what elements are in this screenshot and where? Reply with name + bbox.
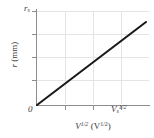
x-axis-tick [93,105,94,110]
y-axis-tick [32,34,37,35]
plot-area [37,11,149,104]
gridline-horizontal [37,11,149,12]
gridline-horizontal [37,57,149,58]
y-axis-title: r (mm) [10,29,19,81]
gridline-horizontal [37,34,149,35]
gridline-horizontal [37,80,149,81]
chart-figure: rs 0 Vs1/2 r (mm) V1/2 (V1/2) [0,0,154,138]
origin-label: 0 [28,105,33,114]
y-axis-top-tick-label: rs [24,4,30,13]
x-axis-title: V1/2 (V1/2) [37,121,149,131]
y-axis-tick [32,11,37,12]
x-axis-tick-label-vs: Vs1/2 [111,104,127,114]
y-axis-tick [32,80,37,81]
y-axis-tick [32,57,37,58]
x-axis-tick [65,105,66,110]
